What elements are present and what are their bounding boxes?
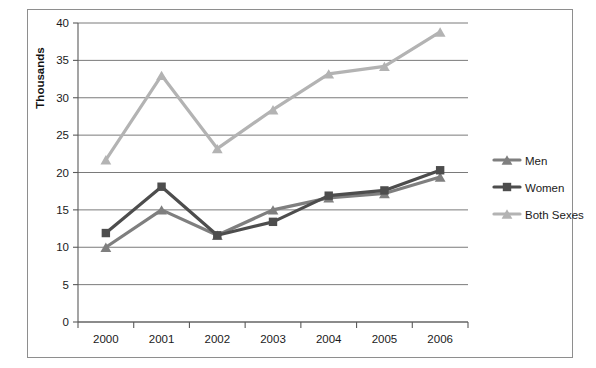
- x-tick-label: 2000: [93, 333, 119, 345]
- chart-legend: MenWomenBoth Sexes: [494, 155, 584, 221]
- data-series: [100, 27, 445, 252]
- y-tick-label: 40: [56, 17, 69, 29]
- x-tick-label: 2005: [372, 333, 398, 345]
- x-tick-label: 2002: [204, 333, 230, 345]
- line-chart: 0510152025303540 20002001200220032004200…: [0, 0, 596, 368]
- legend-marker-women: [503, 183, 511, 191]
- y-tick-label: 15: [56, 204, 69, 216]
- y-tick-label: 20: [56, 167, 69, 179]
- y-tick-label: 30: [56, 92, 69, 104]
- series-line-both-sexes: [106, 32, 440, 160]
- data-point-women-2006: [436, 166, 444, 174]
- data-point-both-sexes-2006: [435, 27, 446, 36]
- legend-label-both-sexes: Both Sexes: [525, 209, 584, 221]
- y-axis-ticks: 0510152025303540: [56, 17, 78, 328]
- x-tick-label: 2001: [149, 333, 175, 345]
- data-point-women-2000: [102, 229, 110, 237]
- y-tick-label: 10: [56, 241, 69, 253]
- x-tick-label: 2004: [316, 333, 342, 345]
- y-axis-title-text: Thousands: [34, 47, 46, 108]
- data-point-women-2003: [269, 218, 277, 226]
- y-tick-label: 0: [63, 316, 69, 328]
- data-point-both-sexes-2001: [156, 71, 167, 80]
- data-point-women-2002: [213, 231, 221, 239]
- data-point-women-2001: [157, 183, 165, 191]
- data-point-women-2004: [325, 191, 333, 199]
- y-tick-label: 5: [63, 279, 69, 291]
- y-tick-label: 25: [56, 129, 69, 141]
- gridlines: [78, 23, 468, 322]
- data-point-women-2005: [380, 186, 388, 194]
- y-axis-title: Thousands: [34, 47, 46, 108]
- legend-label-men: Men: [525, 155, 547, 167]
- x-tick-label: 2006: [427, 333, 453, 345]
- legend-label-women: Women: [525, 182, 564, 194]
- x-axis-ticks: 2000200120022003200420052006: [78, 322, 468, 345]
- x-tick-label: 2003: [260, 333, 286, 345]
- chart-figure: 0510152025303540 20002001200220032004200…: [0, 0, 596, 368]
- y-tick-label: 35: [56, 54, 69, 66]
